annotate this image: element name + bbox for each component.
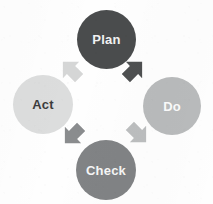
cycle-node-do: Do [143, 77, 201, 135]
cycle-node-plan-label: Plan [92, 33, 120, 46]
cycle-node-act-label: Act [32, 98, 54, 111]
cycle-node-plan: Plan [77, 10, 136, 69]
cycle-node-check: Check [76, 140, 136, 200]
cycle-node-act: Act [13, 75, 73, 134]
pdca-cycle-diagram: Plan Do Check Act [0, 0, 213, 204]
cycle-node-check-label: Check [86, 164, 126, 177]
cycle-node-do-label: Do [163, 100, 181, 113]
